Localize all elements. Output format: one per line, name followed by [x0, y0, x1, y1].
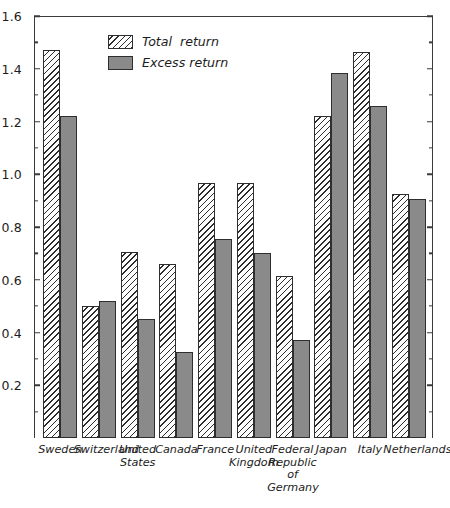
bar-total-return [159, 264, 176, 438]
legend-item-total-return: Total return [108, 34, 228, 49]
bar-total-return [314, 116, 331, 438]
bar-total-return [198, 183, 215, 438]
y-axis-minor-tick [34, 411, 38, 412]
legend-label-excess-return: Excess return [142, 55, 228, 70]
bar-excess-return [370, 106, 387, 438]
bar-excess-return [409, 199, 426, 438]
y-axis-major-tick [34, 174, 40, 176]
y-axis-minor-tick [34, 253, 38, 254]
chart-legend: Total return Excess return [108, 34, 228, 76]
y-axis-major-tick [34, 15, 40, 17]
y-axis-major-tick [34, 279, 40, 281]
bar-excess-return [254, 253, 271, 438]
y-axis-minor-tick [429, 305, 433, 306]
y-axis-minor-tick [34, 358, 38, 359]
y-axis-major-tick [34, 332, 40, 334]
bar-excess-return [331, 73, 348, 438]
bar-total-return [353, 52, 370, 438]
y-axis-minor-tick [34, 147, 38, 148]
hatched-swatch-icon [108, 35, 133, 49]
bar-excess-return [215, 239, 232, 438]
x-axis-category-label: Netherlands [383, 444, 434, 457]
y-axis-major-tick [427, 15, 433, 17]
bar-total-return [82, 306, 99, 438]
y-axis-major-tick [34, 226, 40, 228]
y-axis-major-tick [427, 279, 433, 281]
y-axis-major-tick [34, 385, 40, 387]
y-axis-minor-tick [429, 200, 433, 201]
y-axis-minor-tick [34, 305, 38, 306]
y-axis-major-tick [34, 121, 40, 123]
grey-swatch-icon [108, 56, 133, 70]
bar-excess-return [99, 301, 116, 438]
y-axis-minor-tick [429, 253, 433, 254]
legend-label-total-return: Total return [142, 34, 219, 49]
y-axis-minor-tick [34, 42, 38, 43]
bar-excess-return [293, 340, 310, 438]
bar-total-return [237, 183, 254, 438]
y-axis-major-tick [427, 226, 433, 228]
y-axis-major-tick [427, 385, 433, 387]
y-axis-major-tick [427, 68, 433, 70]
y-axis-minor-tick [34, 200, 38, 201]
bar-excess-return [176, 352, 193, 438]
bar-excess-return [60, 116, 77, 438]
y-axis-minor-tick [34, 94, 38, 95]
bar-total-return [392, 194, 409, 438]
y-axis-major-tick [427, 121, 433, 123]
bar-total-return [43, 50, 60, 438]
legend-item-excess-return: Excess return [108, 55, 228, 70]
bar-total-return [276, 276, 293, 438]
y-axis-major-tick [427, 174, 433, 176]
bar-total-return [121, 252, 138, 438]
y-axis-minor-tick [429, 42, 433, 43]
bar-chart: 0.20.40.60.81.01.21.41.6 Total return Ex… [0, 0, 450, 508]
bars-layer [0, 0, 450, 508]
y-axis-minor-tick [429, 411, 433, 412]
y-axis-minor-tick [429, 147, 433, 148]
bar-excess-return [138, 319, 155, 438]
y-axis-minor-tick [429, 358, 433, 359]
y-axis-minor-tick [429, 94, 433, 95]
y-axis-major-tick [34, 68, 40, 70]
y-axis-major-tick [427, 332, 433, 334]
